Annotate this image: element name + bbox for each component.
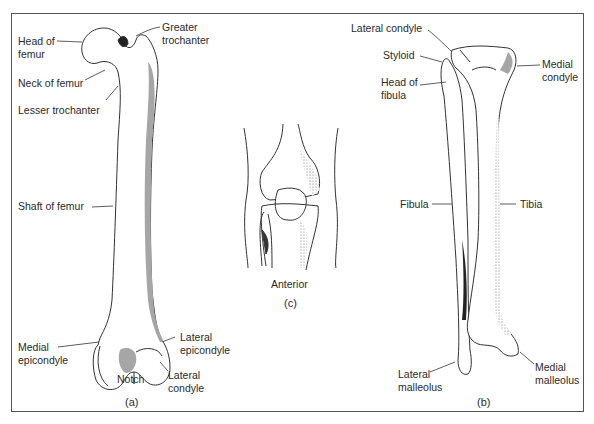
tibia-fibula-drawing xyxy=(441,46,518,374)
label-greater-trochanter: Greater trochanter xyxy=(162,21,209,47)
label-notch: Notch xyxy=(117,373,144,386)
bone-illustrations xyxy=(0,0,594,424)
caption-a: (a) xyxy=(125,396,138,408)
label-tibia: Tibia xyxy=(520,198,542,211)
label-head-of-femur: Head of femur xyxy=(18,35,55,61)
femur-drawing xyxy=(82,28,170,390)
label-lateral-malleolus: Lateral malleolus xyxy=(398,368,442,394)
label-head-of-fibula: Head of fibula xyxy=(381,76,418,102)
label-lateral-condyle-femur: Lateral condyle xyxy=(168,369,204,395)
label-neck-of-femur: Neck of femur xyxy=(18,77,83,90)
caption-b: (b) xyxy=(477,396,490,408)
label-medial-malleolus: Medial malleolus xyxy=(535,361,579,387)
label-styloid: Styloid xyxy=(383,49,415,62)
label-lesser-trochanter: Lesser trochanter xyxy=(18,104,100,117)
label-medial-epicondyle: Medial epicondyle xyxy=(18,341,68,367)
label-shaft-of-femur: Shaft of femur xyxy=(18,200,84,213)
label-lateral-epicondyle: Lateral epicondyle xyxy=(180,331,230,357)
label-fibula: Fibula xyxy=(400,198,429,211)
label-lateral-condyle-tibia: Lateral condyle xyxy=(351,22,422,35)
caption-c: (c) xyxy=(284,297,297,309)
label-anterior: Anterior xyxy=(271,278,308,291)
knee-drawing xyxy=(244,124,338,270)
label-medial-condyle: Medial condyle xyxy=(542,58,578,84)
